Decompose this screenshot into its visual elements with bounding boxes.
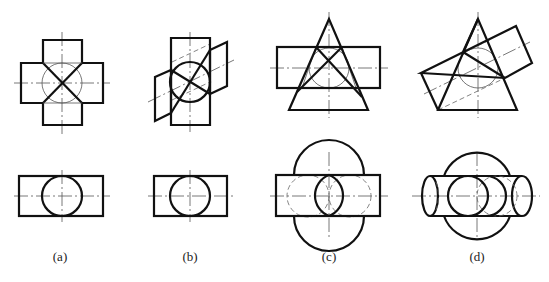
panel-a-top-view xyxy=(14,32,110,134)
panel-d-front-view xyxy=(412,152,540,240)
panel-a-front-view xyxy=(14,170,110,222)
panel-c-top-view xyxy=(270,12,388,118)
panel-c-label: (c) xyxy=(322,249,336,265)
panel-d-label: (d) xyxy=(469,249,484,265)
panel-b-label: (b) xyxy=(182,249,197,265)
panel-b-front-view xyxy=(148,170,233,222)
panel-c-front-view xyxy=(270,140,388,251)
panel-a-label: (a) xyxy=(53,249,67,265)
panel-d-top-view xyxy=(421,12,532,118)
panel-b-top-view xyxy=(148,32,234,132)
drawing-canvas xyxy=(0,0,549,282)
